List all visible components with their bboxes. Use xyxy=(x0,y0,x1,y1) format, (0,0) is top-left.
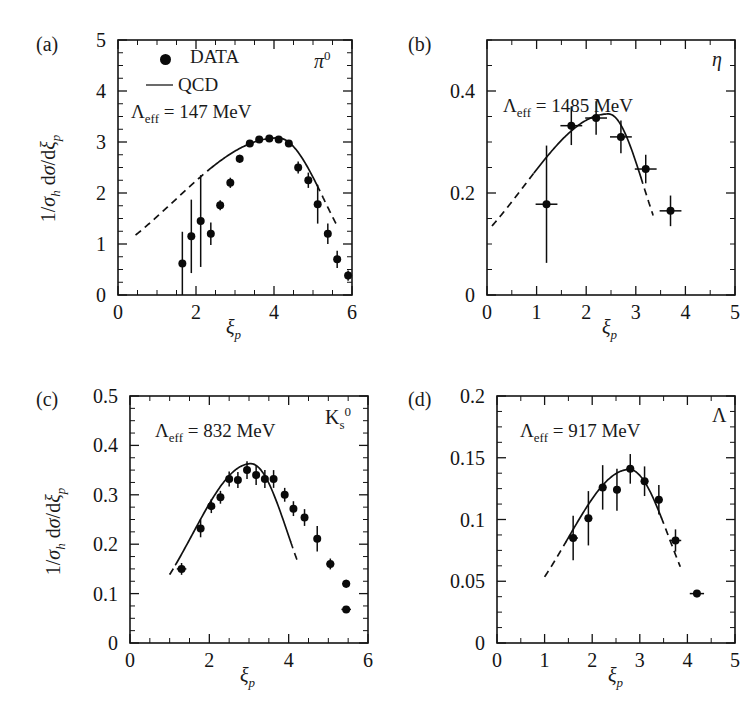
data-point xyxy=(655,485,663,515)
panel-label-d: (d) xyxy=(408,388,431,411)
xtick-label: 4 xyxy=(682,649,692,671)
panel-label-b: (b) xyxy=(408,33,431,56)
data-point xyxy=(690,590,704,598)
qcd-curve-solid xyxy=(566,469,661,541)
data-marker xyxy=(693,590,701,598)
panel-d-canvas: 01234500.050.10.150.2 xyxy=(0,0,756,706)
qcd-curve-dashed-high xyxy=(661,517,680,566)
legend-qcd-label: QCD xyxy=(178,74,218,96)
xaxis-title-b: ξp xyxy=(602,316,617,343)
xtick-label: 2 xyxy=(587,649,597,671)
panel-d: 01234500.050.10.150.2 xyxy=(0,0,756,706)
species-label-eta: η xyxy=(712,48,722,71)
lambda-eff-annotation-c: Λeff = 832 MeV xyxy=(155,420,276,446)
xaxis-title-c: ξp xyxy=(240,664,255,691)
xtick-label: 5 xyxy=(730,649,740,671)
data-point xyxy=(613,469,621,511)
data-marker xyxy=(672,536,680,544)
species-label-ks0: Ks0 xyxy=(325,404,351,433)
data-marker xyxy=(613,486,621,494)
yaxis-title-c: 1/σh dσ/dξp xyxy=(42,472,69,592)
xtick-label: 0 xyxy=(492,649,502,671)
ytick-label: 0.1 xyxy=(460,509,485,531)
lambda-eff-annotation-a: Λeff = 147 MeV xyxy=(131,101,252,127)
data-series-d xyxy=(568,454,704,598)
xaxis-title-a: ξp xyxy=(226,316,241,343)
data-point xyxy=(599,465,607,509)
data-marker xyxy=(569,534,577,542)
data-marker xyxy=(599,483,607,491)
legend-data-label: DATA xyxy=(190,46,239,68)
xtick-label: 3 xyxy=(635,649,645,671)
data-point xyxy=(584,491,592,545)
data-marker xyxy=(655,496,663,504)
data-point xyxy=(641,466,649,496)
yaxis-title-a: 1/σh dσ/dξp xyxy=(37,119,64,239)
species-label-lambda: Λ xyxy=(712,404,727,427)
data-marker xyxy=(626,465,634,473)
legend-data-marker-icon xyxy=(160,54,171,65)
data-marker xyxy=(584,514,592,522)
xaxis-title-d: ξp xyxy=(608,664,623,691)
data-point xyxy=(670,529,681,551)
ytick-label: 0.15 xyxy=(450,447,485,469)
panel-label-c: (c) xyxy=(36,388,58,411)
ytick-label: 0.2 xyxy=(460,385,485,407)
qcd-curve-dashed-low xyxy=(545,542,566,577)
figure-root: 024601234501234500.20.4024600.10.20.30.4… xyxy=(0,0,756,706)
ytick-label: 0 xyxy=(475,632,485,654)
data-point xyxy=(568,516,578,560)
data-point xyxy=(626,454,634,484)
panel-label-a: (a) xyxy=(36,33,58,56)
lambda-eff-annotation-b: Λeff = 1485 MeV xyxy=(503,95,633,121)
data-marker xyxy=(641,477,649,485)
xtick-label: 1 xyxy=(540,649,550,671)
lambda-eff-annotation-d: Λeff = 917 MeV xyxy=(520,420,641,446)
legend-qcd-line-icon xyxy=(146,84,173,86)
ytick-label: 0.05 xyxy=(450,570,485,592)
species-label-pi0: π0 xyxy=(314,48,331,73)
